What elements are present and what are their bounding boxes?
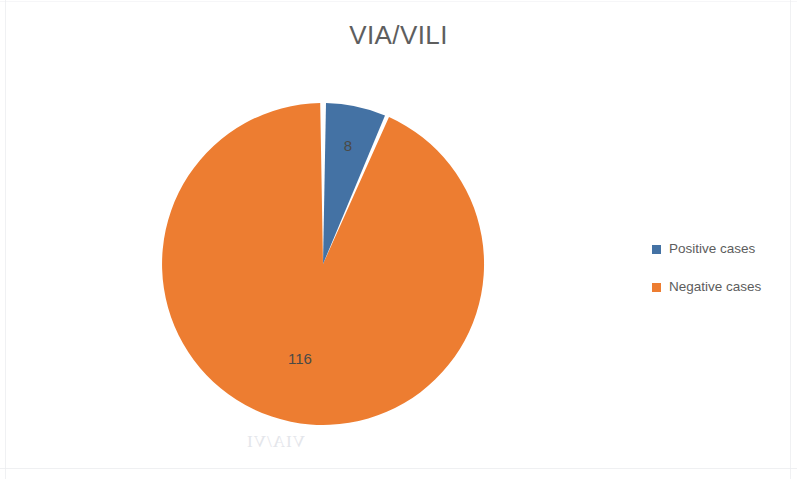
legend-swatch-icon-positive-cases [652,245,661,254]
scanned-page: VIA/VI VIA/VILI 8 116 Positive cases Neg… [0,0,797,479]
page-edge-top-line [0,1,797,2]
pie-label-negative-cases: 116 [288,350,312,367]
chart-legend: Positive cases Negative cases [652,238,792,314]
pie-chart-svg: 8 116 [150,90,500,440]
legend-swatch-icon-negative-cases [652,283,661,292]
page-edge-left-line [5,0,6,479]
pie-slice-negative-cases[interactable] [162,103,484,425]
chart-title: VIA/VILI [0,20,797,51]
pie-label-positive-cases: 8 [344,137,352,154]
legend-item-positive-cases[interactable]: Positive cases [652,238,792,260]
pie-chart-plot-area: 8 116 [150,90,500,440]
legend-item-negative-cases[interactable]: Negative cases [652,276,792,298]
legend-label-negative-cases: Negative cases [669,280,761,294]
legend-label-positive-cases: Positive cases [669,242,755,256]
page-edge-bottom-line [0,468,797,469]
